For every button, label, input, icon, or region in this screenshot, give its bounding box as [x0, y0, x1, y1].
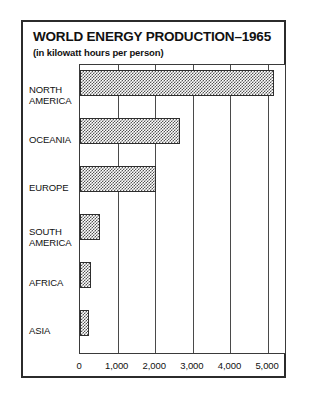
- gridline-3000: [193, 65, 194, 353]
- bar-oceania: [80, 118, 180, 144]
- chart-title: WORLD ENERGY PRODUCTION–1965: [33, 29, 271, 44]
- bar-south-america: [80, 214, 100, 240]
- xtick-label-2000: 2,000: [134, 360, 174, 371]
- category-label-europe: EUROPE: [29, 183, 81, 194]
- bar-europe: [80, 166, 156, 192]
- bar-africa: [80, 262, 91, 288]
- xtick-label-4000: 4,000: [209, 360, 249, 371]
- bar-asia: [80, 310, 89, 336]
- gridline-2000: [155, 65, 156, 353]
- category-label-oceania: OCEANIA: [29, 135, 81, 146]
- category-label-south-america: SOUTH AMERICA: [29, 227, 81, 248]
- gridline-4000: [230, 65, 231, 353]
- xtick-label-1000: 1,000: [97, 360, 137, 371]
- category-label-line: AMERICA: [29, 238, 81, 249]
- category-label-line: SOUTH: [29, 227, 81, 238]
- xtick-label-3000: 3,000: [172, 360, 212, 371]
- plot-area: [79, 64, 286, 354]
- category-label-line: NORTH: [29, 85, 81, 96]
- category-label-line: EUROPE: [29, 183, 81, 194]
- bar-north-america: [80, 70, 274, 96]
- chart-subtitle: (in kilowatt hours per person): [33, 47, 164, 58]
- category-label-line: AMERICA: [29, 96, 81, 107]
- category-label-line: ASIA: [29, 326, 81, 337]
- gridline-5000: [268, 65, 269, 353]
- chart-frame: WORLD ENERGY PRODUCTION–1965 (in kilowat…: [21, 20, 286, 378]
- xtick-label-0: 0: [59, 360, 99, 371]
- category-label-line: OCEANIA: [29, 135, 81, 146]
- category-label-africa: AFRICA: [29, 278, 81, 289]
- xtick-label-5000: 5,000: [247, 360, 287, 371]
- category-label-north-america: NORTH AMERICA: [29, 85, 81, 106]
- category-label-asia: ASIA: [29, 326, 81, 337]
- gridline-1000: [118, 65, 119, 353]
- category-label-line: AFRICA: [29, 278, 81, 289]
